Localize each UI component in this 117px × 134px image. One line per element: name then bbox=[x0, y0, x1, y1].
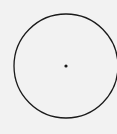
center-point bbox=[64, 64, 67, 67]
circle-diagram bbox=[0, 0, 117, 134]
